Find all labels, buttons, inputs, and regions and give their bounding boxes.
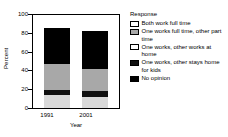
bar-segment[interactable]	[44, 90, 70, 95]
bar-segment[interactable]	[82, 91, 108, 97]
legend-title: Response	[130, 11, 226, 18]
y-axis-tick-labels: 100 80 60 40 20 0	[10, 0, 28, 137]
y-tick-label-40: 40	[12, 67, 28, 73]
stacked-bar-chart: Percent 100 80 60 40 20 0 1991 2001 Year	[0, 0, 228, 137]
legend-swatch-white-icon	[130, 44, 139, 50]
bars-container	[33, 15, 119, 108]
bar-segment[interactable]	[44, 64, 70, 90]
y-tick-label-80: 80	[12, 30, 28, 36]
legend-items: Both work full timeOne works full time, …	[130, 20, 226, 82]
legend-item-label: One works, other stays home for kids	[142, 59, 227, 73]
plot-area	[32, 14, 120, 109]
bar-1991[interactable]	[44, 15, 70, 108]
legend-item-label: One works full time, other part time	[142, 28, 227, 42]
legend-swatch-white-icon	[130, 21, 139, 27]
bar-segment[interactable]	[82, 15, 108, 31]
legend-item[interactable]: One works, other works at home	[130, 44, 226, 58]
legend-swatch-black-icon	[130, 76, 139, 82]
legend-item[interactable]: Both work full time	[130, 20, 226, 27]
x-tick-label-1991: 1991	[27, 112, 67, 119]
y-tick-label-60: 60	[12, 49, 28, 55]
x-axis-title: Year	[32, 122, 120, 128]
legend-item-label: Both work full time	[142, 20, 191, 27]
legend-swatch-black-icon	[130, 60, 139, 66]
y-tick-label-0: 0	[12, 105, 28, 111]
legend-item-label: No opinion	[142, 75, 171, 82]
bar-segment[interactable]	[82, 31, 108, 69]
bar-segment[interactable]	[82, 69, 108, 91]
legend: Response Both work full timeOne works fu…	[130, 11, 226, 83]
bar-2001[interactable]	[82, 15, 108, 108]
legend-item-label: One works, other works at home	[142, 44, 227, 58]
legend-item[interactable]: No opinion	[130, 75, 226, 82]
y-tick-label-20: 20	[12, 86, 28, 92]
legend-item[interactable]: One works, other stays home for kids	[130, 59, 226, 73]
bar-segment[interactable]	[82, 97, 108, 108]
y-tick-label-100: 100	[12, 11, 28, 17]
bar-segment[interactable]	[44, 95, 70, 108]
bar-segment[interactable]	[44, 28, 70, 64]
legend-swatch-gray-icon	[130, 29, 139, 35]
legend-item[interactable]: One works full time, other part time	[130, 28, 226, 42]
bar-segment[interactable]	[44, 15, 70, 28]
x-tick-label-2001: 2001	[66, 112, 106, 119]
